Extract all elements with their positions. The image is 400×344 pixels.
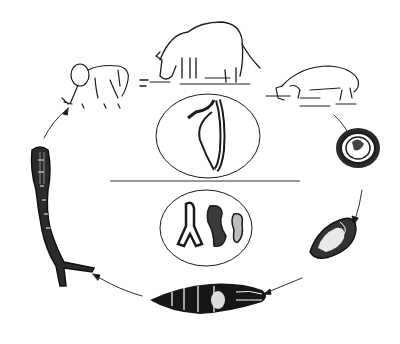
pig-figure [266,66,359,106]
larval-forms-panel [160,190,252,266]
snail-stage [150,284,266,314]
life-cycle-diagram [0,0,400,344]
adult-worm-panel [156,94,260,178]
miracidium-stage [310,218,356,258]
buffalo-figure [150,22,260,84]
egg-stage [336,128,380,168]
cercaria-stage [32,147,95,286]
human-figure [62,64,148,108]
